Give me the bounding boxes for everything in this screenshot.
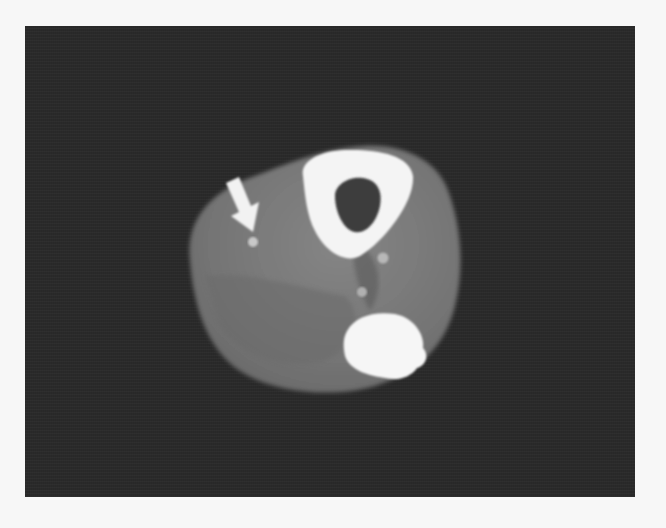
vessel-dot-arrowed [248, 237, 258, 247]
vessel-dot [357, 287, 367, 297]
ct-slice-illustration [25, 26, 635, 497]
ct-scan-image [25, 26, 635, 497]
vessel-dot [378, 253, 389, 264]
